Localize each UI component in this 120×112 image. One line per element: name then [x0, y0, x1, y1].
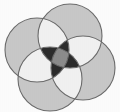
venn-svg-canvas	[0, 0, 120, 112]
venn-diagram-figure: Four-circle Venn diagram	[0, 0, 120, 112]
